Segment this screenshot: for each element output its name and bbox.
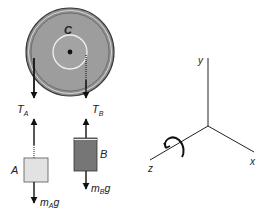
y-axis-label: y: [197, 55, 204, 66]
tension-b-label: TB: [92, 103, 104, 117]
x-axis-label: x: [249, 156, 256, 167]
z-axis-label: z: [147, 163, 153, 174]
pulley-diagram: C TA TB A B mAg mBg y x z: [0, 0, 273, 216]
weight-a-label: mAg: [40, 196, 59, 209]
pulley-c: C: [26, 8, 114, 96]
x-axis: [208, 126, 254, 152]
weight-b-label: mBg: [91, 182, 110, 195]
pulley-label: C: [64, 24, 73, 36]
block-b: B: [74, 138, 107, 171]
rotation-arrow-icon: [164, 138, 184, 157]
axle-icon: [68, 50, 73, 55]
block-a-label: A: [10, 164, 18, 176]
block-a: A: [10, 158, 48, 182]
tension-a-label: TA: [17, 103, 29, 117]
z-axis: [150, 126, 208, 160]
block-b-label: B: [100, 148, 107, 160]
